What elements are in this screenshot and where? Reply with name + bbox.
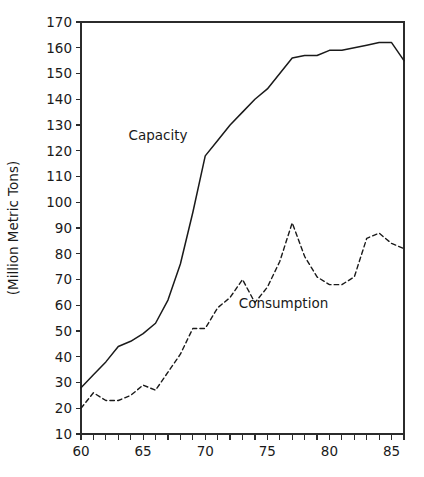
y-tick-label: 60 (55, 297, 72, 313)
x-tick-label: 65 (135, 443, 152, 459)
x-tick-label: 80 (321, 443, 338, 459)
y-tick-label: 170 (46, 14, 72, 30)
plot-frame (81, 22, 404, 434)
y-tick-label: 120 (46, 143, 72, 159)
series-line-capacity (81, 43, 404, 388)
x-tick-label: 60 (72, 443, 89, 459)
y-tick-label: 50 (55, 323, 72, 339)
x-tick-label: 75 (259, 443, 276, 459)
x-axis-ticks: 606570758085 (72, 434, 404, 459)
x-tick-label: 70 (197, 443, 214, 459)
y-tick-label: 10 (55, 426, 72, 442)
y-axis-ticks: 1020304050607080901001101201301401501601… (46, 14, 81, 442)
series-label-capacity: Capacity (129, 127, 188, 143)
y-axis-title-text: (Million Metric Tons) (5, 161, 21, 295)
y-tick-label: 40 (55, 349, 72, 365)
y-tick-label: 80 (55, 246, 72, 262)
data-series-group (81, 43, 404, 409)
y-tick-label: 30 (55, 374, 72, 390)
y-tick-label: 130 (46, 117, 72, 133)
series-line-consumption (81, 223, 404, 408)
line-chart: 1020304050607080901001101201301401501601… (0, 0, 424, 477)
y-axis-title: (Million Metric Tons) (5, 161, 21, 295)
y-tick-label: 70 (55, 271, 72, 287)
y-tick-label: 90 (55, 220, 72, 236)
chart-container: 1020304050607080901001101201301401501601… (0, 0, 424, 477)
series-label-consumption: Consumption (239, 295, 328, 311)
y-tick-label: 110 (46, 168, 72, 184)
y-tick-label: 20 (55, 400, 72, 416)
y-tick-label: 150 (46, 65, 72, 81)
plot-border (81, 22, 404, 434)
y-tick-label: 160 (46, 40, 72, 56)
y-tick-label: 140 (46, 91, 72, 107)
series-annotations: CapacityConsumption (129, 127, 329, 310)
x-tick-label: 85 (383, 443, 400, 459)
y-tick-label: 100 (46, 194, 72, 210)
